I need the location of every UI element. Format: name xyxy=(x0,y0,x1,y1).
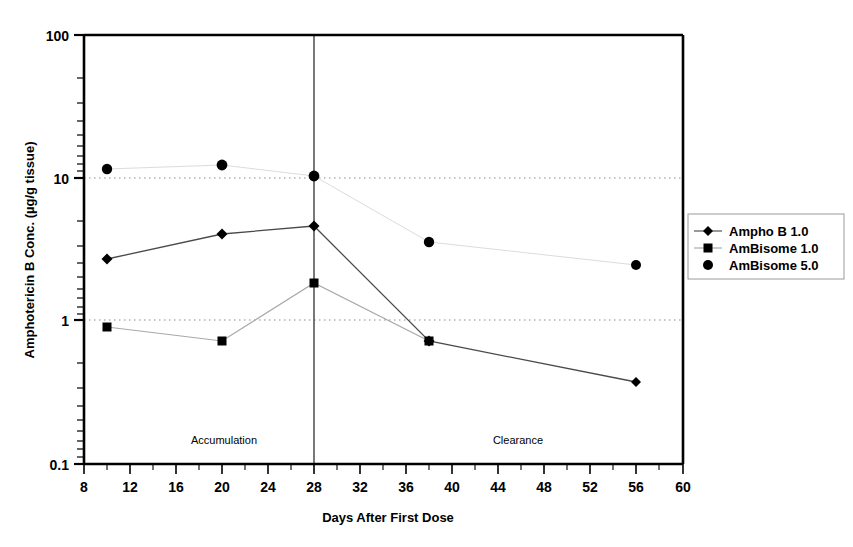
x-tick-label: 28 xyxy=(306,479,322,495)
x-tick-label: 52 xyxy=(582,479,598,495)
data-point xyxy=(631,260,641,270)
amphotericin-concentration-chart: 100 10 1 0.1 8 12 16 20 24 28 32 36 40 4… xyxy=(0,0,853,547)
y-axis-ticks xyxy=(74,35,84,464)
y-tick-labels: 100 10 1 0.1 xyxy=(46,28,70,473)
circle-marker-icon xyxy=(703,260,713,270)
x-axis-title: Days After First Dose xyxy=(322,510,454,525)
annotation-clearance: Clearance xyxy=(493,434,543,446)
data-point xyxy=(217,160,228,171)
y-tick-label: 100 xyxy=(46,28,70,44)
plot-background xyxy=(84,35,683,464)
x-tick-label: 36 xyxy=(398,479,414,495)
square-marker-icon xyxy=(704,244,713,253)
x-axis-ticks xyxy=(84,464,683,474)
data-point xyxy=(425,337,434,346)
x-tick-label: 48 xyxy=(536,479,552,495)
legend: Ampho B 1.0 AmBisome 1.0 AmBisome 5.0 xyxy=(688,214,844,279)
data-point xyxy=(102,164,112,174)
data-point xyxy=(309,171,320,182)
x-tick-label: 60 xyxy=(675,479,691,495)
legend-label-ambisome-1-0: AmBisome 1.0 xyxy=(729,241,819,256)
x-tick-label: 40 xyxy=(444,479,460,495)
x-tick-label: 8 xyxy=(80,479,88,495)
x-tick-label: 12 xyxy=(122,479,138,495)
y-tick-label: 10 xyxy=(53,171,69,187)
figure-container: 100 10 1 0.1 8 12 16 20 24 28 32 36 40 4… xyxy=(0,0,853,547)
x-tick-label: 16 xyxy=(168,479,184,495)
data-point xyxy=(424,237,434,247)
legend-label-ampho-b-1-0: Ampho B 1.0 xyxy=(729,224,808,239)
y-tick-label: 0.1 xyxy=(50,457,70,473)
annotation-accumulation: Accumulation xyxy=(191,434,257,446)
data-point xyxy=(103,323,112,332)
x-tick-label: 32 xyxy=(352,479,368,495)
x-tick-label: 56 xyxy=(628,479,644,495)
y-tick-label: 1 xyxy=(61,313,69,329)
y-axis-title: Amphotericin B Conc. (µg/g tissue) xyxy=(22,142,37,359)
legend-label-ambisome-5-0: AmBisome 5.0 xyxy=(729,258,819,273)
x-tick-label: 24 xyxy=(260,479,276,495)
x-tick-label: 20 xyxy=(214,479,230,495)
x-tick-labels: 8 12 16 20 24 28 32 36 40 44 48 52 56 60 xyxy=(80,479,691,495)
data-point xyxy=(218,337,227,346)
data-point xyxy=(310,279,319,288)
x-tick-label: 44 xyxy=(490,479,506,495)
